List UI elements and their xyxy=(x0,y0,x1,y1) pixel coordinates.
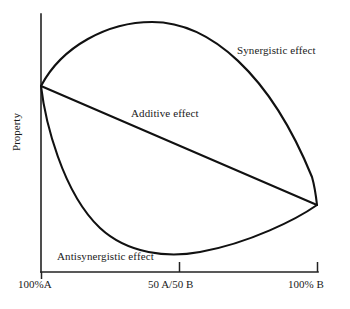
y-axis-label: Property xyxy=(10,102,22,162)
series-additive-line xyxy=(41,86,317,205)
annotation-additive-effect: Additive effect xyxy=(131,107,199,119)
x-axis-tick-label-left: 100%A xyxy=(18,278,52,290)
x-axis-tick-label-right: 100% B xyxy=(288,278,324,290)
x-axis-tick-label-middle: 50 A/50 B xyxy=(148,278,193,290)
annotation-antisynergistic-effect: Antisynergistic effect xyxy=(57,250,154,262)
property-composition-diagram: Synergistic effect Additive effect Antis… xyxy=(0,0,350,309)
annotation-synergistic-effect: Synergistic effect xyxy=(237,44,316,56)
